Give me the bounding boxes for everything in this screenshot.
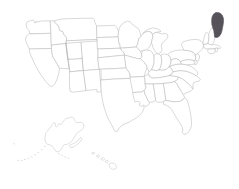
state-mi[interactable] — [151, 32, 168, 54]
state-ok[interactable] — [99, 68, 130, 80]
state-ri[interactable] — [215, 48, 218, 52]
state-fl[interactable] — [164, 98, 192, 135]
state-group-contiguous — [26, 12, 224, 134]
state-or[interactable] — [26, 33, 52, 49]
state-wa[interactable] — [26, 20, 51, 34]
state-az[interactable] — [70, 71, 87, 93]
state-sd[interactable] — [97, 37, 120, 49]
state-ar[interactable] — [130, 76, 146, 92]
state-hi[interactable] — [92, 152, 116, 169]
state-co[interactable] — [81, 41, 99, 71]
state-ak[interactable] — [45, 117, 84, 152]
state-ks[interactable] — [98, 55, 126, 69]
us-map-container — [0, 0, 239, 189]
state-group-insets — [14, 117, 117, 169]
state-nm[interactable] — [84, 69, 102, 92]
us-map-svg[interactable] — [0, 0, 239, 189]
state-ct[interactable] — [208, 49, 215, 54]
state-nj[interactable] — [196, 54, 200, 62]
state-nd[interactable] — [97, 25, 119, 37]
